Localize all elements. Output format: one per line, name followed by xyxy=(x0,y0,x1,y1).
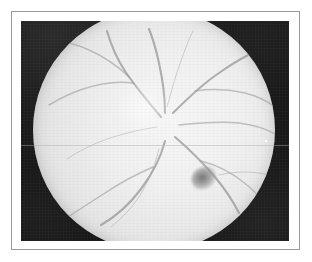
retina-film-grain xyxy=(33,21,275,241)
vessel-temporal-horizontal-vessel xyxy=(179,122,275,135)
vessel-inferonasal-branch xyxy=(65,167,153,219)
fundus-photograph xyxy=(21,21,289,241)
vessel-superonasal-arcade xyxy=(107,31,161,117)
figure-root xyxy=(0,0,312,262)
vessel-superior-fine-vessel xyxy=(167,31,193,107)
vessel-inferior-trunk xyxy=(101,141,165,225)
optic-disc xyxy=(116,82,172,134)
fundus-circular-field xyxy=(33,21,275,241)
vessel-superonasal-branch-lateral xyxy=(49,82,133,105)
vessel-superotemporal-arcade xyxy=(173,49,261,113)
vessel-nasal-fine-vessel xyxy=(67,127,157,159)
vessel-superior-trunk xyxy=(149,29,165,113)
retinal-vessel-layer xyxy=(33,21,275,241)
haemorrhage-blot xyxy=(187,163,220,194)
vessel-inferior-fine-branch xyxy=(111,149,159,227)
vessel-inferotemporal-arcade xyxy=(175,137,239,213)
vessel-superotemporal-branch xyxy=(195,90,275,107)
